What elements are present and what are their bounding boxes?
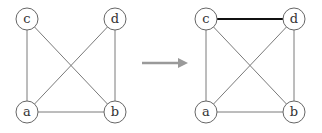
- node-label: d: [111, 11, 119, 26]
- node-d: d: [104, 8, 126, 30]
- graph-after: cdab: [195, 8, 305, 123]
- graph-diagram: cdab cdab: [0, 0, 322, 133]
- arrow-head-icon: [178, 58, 188, 68]
- transformation-arrow: [142, 58, 188, 68]
- node-label: b: [290, 104, 298, 119]
- node-d: d: [283, 8, 305, 30]
- node-label: a: [202, 104, 210, 119]
- node-label: a: [23, 104, 31, 119]
- node-label: d: [290, 11, 298, 26]
- node-c: c: [195, 8, 217, 30]
- node-a: a: [16, 101, 38, 123]
- node-b: b: [104, 101, 126, 123]
- node-b: b: [283, 101, 305, 123]
- node-a: a: [195, 101, 217, 123]
- node-label: c: [202, 11, 209, 26]
- graph-before: cdab: [16, 8, 126, 123]
- node-label: b: [111, 104, 119, 119]
- node-c: c: [16, 8, 38, 30]
- node-label: c: [23, 11, 30, 26]
